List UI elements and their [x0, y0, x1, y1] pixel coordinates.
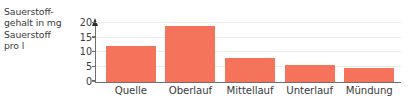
y-axis-label: Sauerstoff- gehalt in mg Sauerstoff pro …: [4, 6, 78, 51]
y-axis-tick: [92, 66, 96, 67]
bar-mündung: [344, 68, 394, 81]
x-axis-tick-label: Mittellauf: [220, 85, 280, 96]
bar-oberlauf: [165, 26, 215, 82]
y-axis-tick-label: 10: [80, 47, 92, 57]
y-axis-label-line-4: pro l: [4, 40, 78, 51]
gridline: [96, 37, 401, 38]
y-axis-tick: [92, 36, 96, 37]
y-axis-tick-label: 20: [80, 18, 92, 28]
bar-mittellauf: [225, 58, 275, 81]
x-axis-tick-label: Mündung: [339, 85, 399, 96]
y-axis-tick-labels: 05101520: [72, 17, 92, 83]
gridline: [96, 22, 401, 23]
y-axis-label-line-1: Sauerstoff-: [4, 6, 78, 17]
y-axis-tick: [92, 51, 96, 52]
x-axis-tick-label: Unterlauf: [280, 85, 340, 96]
x-axis-tick-label: Oberlauf: [161, 85, 221, 96]
x-axis-tick-label: Quelle: [101, 85, 161, 96]
y-axis-tick-label: 15: [80, 33, 92, 43]
x-axis-tick-labels: QuelleOberlaufMittellaufUnterlaufMündung: [95, 85, 401, 101]
y-axis-tick: [92, 80, 96, 81]
y-axis-label-line-3: Sauerstoff: [4, 29, 78, 40]
plot-area: [95, 17, 401, 83]
x-axis-line: [95, 82, 401, 83]
bar-unterlauf: [285, 65, 335, 81]
y-axis-tick: [92, 22, 96, 23]
chart-figure: Sauerstoff- gehalt in mg Sauerstoff pro …: [0, 0, 409, 105]
y-axis-label-line-2: gehalt in mg: [4, 17, 78, 28]
bar-quelle: [106, 46, 156, 81]
